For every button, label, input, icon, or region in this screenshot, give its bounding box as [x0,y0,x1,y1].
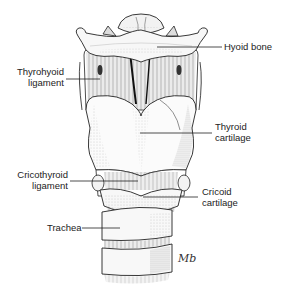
label-trachea: Trachea [47,222,82,233]
label-cricothyroid-ligament-line2: ligament [12,180,68,191]
label-thyroid-cartilage-line1: Thyroid [215,121,251,132]
artist-signature: Mb [177,252,196,265]
label-cricoid-cartilage-line2: cartilage [202,197,238,208]
label-cricoid-cartilage: Cricoid cartilage [202,186,238,208]
label-thyrohyoid-ligament-line2: ligament [16,77,64,88]
trachea-shape [102,206,176,284]
label-thyroid-cartilage-line2: cartilage [215,132,251,143]
label-thyrohyoid-ligament: Thyrohyoid ligament [16,66,64,88]
label-trachea-line1: Trachea [47,222,82,233]
label-thyrohyoid-ligament-line1: Thyrohyoid [16,66,64,77]
label-hyoid-bone-line1: Hyoid bone [224,41,272,52]
label-cricoid-cartilage-line1: Cricoid [202,186,238,197]
hyoid-left-horn-tip [103,26,116,36]
label-cricothyroid-ligament-line1: Cricothyroid [12,169,68,180]
label-hyoid-bone: Hyoid bone [224,41,272,52]
label-cricothyroid-ligament: Cricothyroid ligament [12,169,68,191]
label-thyroid-cartilage: Thyroid cartilage [215,121,251,143]
hyoid-right-horn-tip [166,26,178,36]
